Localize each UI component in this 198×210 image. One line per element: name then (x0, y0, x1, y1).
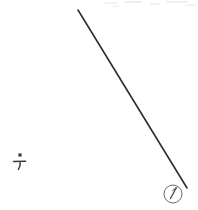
annotation-dot-icon (18, 153, 21, 156)
circled-number-one (164, 185, 182, 203)
drawing-layer (0, 0, 198, 210)
diagonal-line (78, 10, 187, 188)
sketch-canvas (0, 0, 198, 210)
annotation-tee-icon (14, 161, 26, 169)
dot-over-tee-mark (14, 153, 26, 169)
